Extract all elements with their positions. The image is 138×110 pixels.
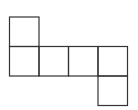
net-square-bottom-right <box>98 76 128 106</box>
cube-net-diagram <box>0 0 138 110</box>
net-square-row-3 <box>69 47 99 77</box>
net-square-row-1 <box>10 47 40 77</box>
net-square-row-4 <box>98 47 128 77</box>
net-square-row-2 <box>39 47 69 77</box>
net-square-top-left <box>10 17 40 47</box>
